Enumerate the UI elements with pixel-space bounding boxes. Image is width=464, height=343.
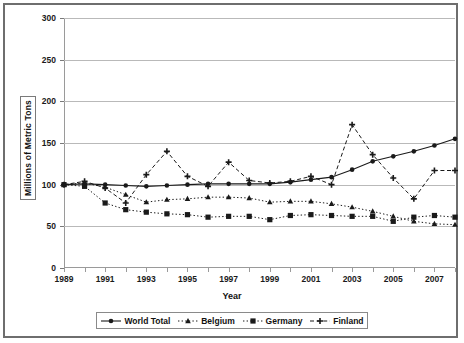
data-point — [185, 182, 190, 187]
data-point — [329, 201, 335, 206]
legend-swatch-square-icon — [242, 316, 264, 326]
y-axis-title-box: Millions of Metric Tons — [20, 96, 36, 200]
data-point — [370, 208, 376, 213]
data-point — [452, 168, 458, 174]
data-point — [391, 219, 396, 224]
legend-swatch-triangle-icon — [177, 316, 199, 326]
legend-item-world-total[interactable]: World Total — [100, 316, 170, 326]
series-line — [64, 185, 455, 222]
data-point — [123, 200, 129, 206]
series-world-total — [62, 137, 458, 189]
data-point — [144, 210, 149, 215]
data-point — [123, 183, 128, 188]
data-point — [103, 200, 108, 205]
data-point — [82, 184, 87, 189]
data-point — [350, 167, 355, 172]
legend-swatch-plus-icon — [309, 316, 331, 326]
legend-label: Finland — [333, 316, 363, 326]
data-point — [308, 173, 314, 179]
data-point — [250, 318, 255, 323]
data-point — [267, 180, 273, 186]
data-point — [329, 182, 335, 188]
data-point — [123, 207, 128, 212]
legend-swatch-circle-icon — [100, 316, 122, 326]
data-point — [205, 215, 210, 220]
data-point — [432, 213, 437, 218]
data-point — [102, 185, 108, 191]
legend-label: Belgium — [201, 316, 235, 326]
data-point — [144, 184, 149, 189]
legend-item-belgium[interactable]: Belgium — [177, 316, 235, 326]
data-point — [267, 217, 272, 222]
data-point — [349, 204, 355, 209]
data-point — [109, 318, 114, 323]
data-point — [184, 173, 190, 179]
data-point — [329, 213, 334, 218]
data-point — [267, 199, 273, 204]
data-point — [411, 215, 416, 220]
data-point — [391, 154, 396, 159]
series-line — [64, 125, 455, 203]
data-point — [288, 198, 294, 203]
data-point — [452, 215, 457, 220]
data-point — [317, 318, 323, 324]
data-point — [390, 175, 396, 181]
data-point — [226, 214, 231, 219]
data-point — [308, 212, 313, 217]
data-point — [432, 143, 437, 148]
legend-item-finland[interactable]: Finland — [309, 316, 363, 326]
data-point — [452, 222, 458, 227]
data-point — [165, 183, 170, 188]
legend-label: Germany — [266, 316, 303, 326]
data-point — [350, 214, 355, 219]
data-point — [185, 196, 191, 201]
data-point — [247, 214, 252, 219]
y-axis-title: Millions of Metric Tons — [23, 100, 33, 196]
data-point — [164, 148, 170, 154]
data-point — [288, 213, 293, 218]
data-point — [412, 149, 417, 154]
data-point — [246, 195, 252, 200]
x-axis-title: Year — [0, 291, 464, 301]
chart-legend: World TotalBelgiumGermanyFinland — [96, 312, 368, 329]
data-point — [226, 182, 231, 187]
legend-item-germany[interactable]: Germany — [242, 316, 303, 326]
data-point — [205, 194, 211, 199]
legend-label: World Total — [124, 316, 170, 326]
series-line — [64, 183, 455, 225]
data-point — [431, 168, 437, 174]
data-point — [185, 212, 190, 217]
data-point — [287, 178, 293, 184]
line-chart: 050100150200250300 198919911993199519971… — [0, 0, 464, 343]
data-point — [370, 159, 375, 164]
data-point — [453, 137, 458, 142]
data-point — [164, 211, 169, 216]
data-point — [370, 214, 375, 219]
series-finland — [61, 122, 458, 206]
series-line — [64, 139, 455, 187]
data-point — [349, 122, 355, 128]
